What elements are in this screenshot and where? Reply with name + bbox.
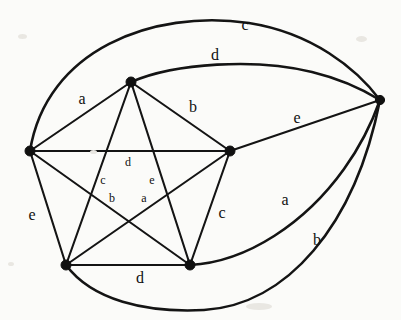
- vertex-center-right: [225, 146, 235, 156]
- edge-label-e-inner: e: [149, 174, 154, 186]
- paper-speck: [246, 303, 272, 310]
- edge-label-a-lower-right: a: [281, 192, 288, 208]
- paper-speck: [18, 34, 27, 39]
- vertex-bottom-right: [185, 260, 195, 270]
- graph-diagram: cdabeecabddceba: [0, 0, 401, 320]
- paper-speck: [8, 262, 14, 266]
- edge-top-far-right-curve: [131, 64, 380, 100]
- vertex-bottom-left: [61, 260, 71, 270]
- edge-center-right-bottom-left: [66, 151, 230, 265]
- vertex-far-right: [375, 95, 384, 104]
- edge-left-far-right-outer: [30, 20, 380, 151]
- edge-label-e-left: e: [28, 207, 35, 223]
- edge-label-d-top: d: [211, 47, 219, 63]
- edges-group: [30, 20, 380, 310]
- edge-label-c-top: c: [241, 17, 248, 33]
- edge-label-c-lower-middle: c: [218, 205, 225, 221]
- edge-center-right-far-right: [230, 100, 380, 151]
- edge-top-center-right: [131, 82, 230, 151]
- edge-top-bottom-left: [66, 82, 131, 265]
- vertex-top: [126, 77, 136, 87]
- edge-label-b-inner: b: [109, 192, 115, 204]
- edge-left-bottom-right: [30, 151, 190, 265]
- vertex-left: [25, 146, 35, 156]
- edge-top-bottom-right: [131, 82, 190, 265]
- paper-speck: [356, 36, 367, 42]
- edge-label-c-inner: c: [100, 174, 105, 186]
- edge-label-b-upper-right: b: [189, 99, 197, 115]
- edge-label-b-lower-right: b: [313, 232, 321, 248]
- edge-label-a-upper-left: a: [78, 91, 85, 107]
- edge-label-d-inner: d: [125, 156, 131, 168]
- edge-label-e-right: e: [293, 110, 300, 126]
- edge-label-d-bottom: d: [136, 270, 144, 286]
- paper-speck: [90, 150, 97, 154]
- edge-label-a-inner: a: [141, 192, 146, 204]
- graph-canvas: [0, 0, 401, 320]
